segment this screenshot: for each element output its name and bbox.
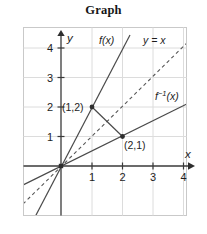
x-tick-label-1: 1 <box>89 171 95 183</box>
label-y-equals-x: y = x <box>142 34 166 46</box>
label-f-inverse-superscript: −1 <box>158 89 167 98</box>
y-tick-label-2: 2 <box>47 101 53 113</box>
data-point-1-2 <box>90 105 95 110</box>
y-tick-label-3: 3 <box>47 72 53 84</box>
point-label-2-1: (2,1) <box>124 139 146 151</box>
label-f-inverse-tail: (x) <box>166 90 178 102</box>
x-axis-label: x <box>184 148 192 160</box>
coordinate-plane-svg: 1 2 3 4 1 2 3 4 y x f(x) y = x f−1(x) (1… <box>0 0 207 234</box>
origin-marker <box>59 164 63 168</box>
x-axis-arrow <box>188 162 195 170</box>
plot-area: 1 2 3 4 1 2 3 4 y x f(x) y = x f−1(x) (1… <box>0 0 207 234</box>
plot-frame <box>24 28 187 216</box>
graph-figure: Graph <box>0 0 207 234</box>
x-tick-label-3: 3 <box>150 171 156 183</box>
x-tick-label-2: 2 <box>119 171 125 183</box>
x-tick-label-4: 4 <box>180 171 186 183</box>
y-tick-label-4: 4 <box>47 42 53 54</box>
label-f-of-x: f(x) <box>99 34 114 46</box>
point-label-1-2: (1,2) <box>62 101 84 113</box>
y-tick-label-1: 1 <box>47 131 53 143</box>
